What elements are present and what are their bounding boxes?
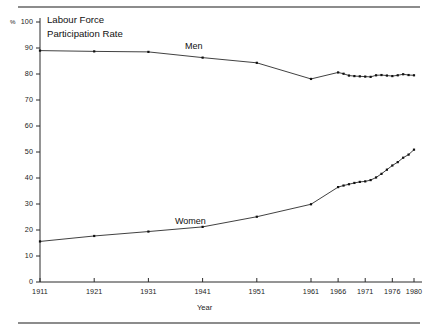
data-point-men [375,74,377,76]
y-tick-label: 80 [11,69,33,78]
data-point-women [353,182,355,184]
data-point-men [391,75,393,77]
data-point-women [407,154,409,156]
y-tick-label: 60 [11,121,33,130]
data-point-women [380,173,382,175]
data-point-men [402,73,404,75]
x-tick-label: 1961 [296,287,326,296]
series-group [39,50,415,243]
x-tick-label: 1921 [79,287,109,296]
series-line-women [40,150,414,242]
y-tick-label: 30 [11,199,33,208]
data-point-women [391,164,393,166]
data-point-men [147,51,149,53]
data-point-women [348,183,350,185]
data-point-women [93,235,95,237]
y-tick-label: 20 [11,225,33,234]
data-point-women [364,180,366,182]
x-tick-label: 1980 [399,287,429,296]
y-tick-label: 70 [11,95,33,104]
data-point-men [364,76,366,78]
axes-group [40,18,422,282]
data-point-women [397,161,399,163]
data-point-men [342,73,344,75]
data-point-men [202,57,204,59]
y-tick-label: 0 [11,277,33,286]
ticks-group [36,22,414,282]
data-point-women [413,149,415,151]
data-point-men [413,74,415,76]
y-tick-label: 50 [11,147,33,156]
data-point-women [337,186,339,188]
data-point-men [353,75,355,77]
data-point-women [342,184,344,186]
data-point-women [310,203,312,205]
data-point-women [386,169,388,171]
x-tick-label: 1966 [323,287,353,296]
y-tick-label: 100 [11,17,33,26]
data-point-men [380,74,382,76]
y-tick-label: 40 [11,173,33,182]
data-point-men [39,50,41,52]
data-point-men [93,50,95,52]
y-tick-label: 90 [11,43,33,52]
data-point-women [39,240,41,242]
data-point-women [202,226,204,228]
data-point-men [359,75,361,77]
data-point-men [348,74,350,76]
data-point-women [402,157,404,159]
y-tick-label: 10 [11,251,33,260]
data-point-men [310,78,312,80]
x-tick-label: 1951 [242,287,272,296]
data-point-men [337,71,339,73]
data-point-women [375,176,377,178]
x-tick-label: 1931 [133,287,163,296]
x-tick-label: 1941 [188,287,218,296]
data-point-men [397,74,399,76]
series-line-men [40,51,414,79]
x-tick-label: 1911 [25,287,55,296]
data-point-men [256,62,258,64]
figure-container: Labour Force Participation Rate % Men Wo… [0,0,437,332]
data-point-women [359,181,361,183]
data-point-men [407,74,409,76]
plot-area [0,0,437,332]
data-point-women [147,230,149,232]
data-point-men [386,74,388,76]
data-point-women [256,216,258,218]
data-point-women [370,179,372,181]
x-tick-label: 1971 [350,287,380,296]
data-point-men [370,76,372,78]
